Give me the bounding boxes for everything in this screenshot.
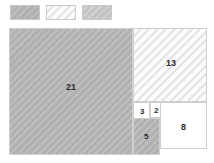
square-5-label: 5	[144, 133, 148, 141]
square-3-label: 3	[140, 108, 144, 116]
square-8-label: 8	[181, 123, 186, 132]
square-8[interactable]: 8	[160, 102, 207, 149]
square-3[interactable]: 3	[133, 102, 150, 119]
squares-group: 21 13 8 5 3 2	[0, 0, 214, 163]
square-2[interactable]: 2	[150, 102, 161, 118]
square-21-label: 21	[66, 83, 76, 92]
fibonacci-diagram-canvas: 21 13 8 5 3 2	[0, 0, 214, 163]
square-21[interactable]: 21	[9, 28, 133, 155]
square-13[interactable]: 13	[133, 28, 207, 102]
square-13-label: 13	[166, 59, 176, 68]
square-5[interactable]: 5	[133, 118, 160, 155]
square-2-label: 2	[154, 107, 158, 115]
